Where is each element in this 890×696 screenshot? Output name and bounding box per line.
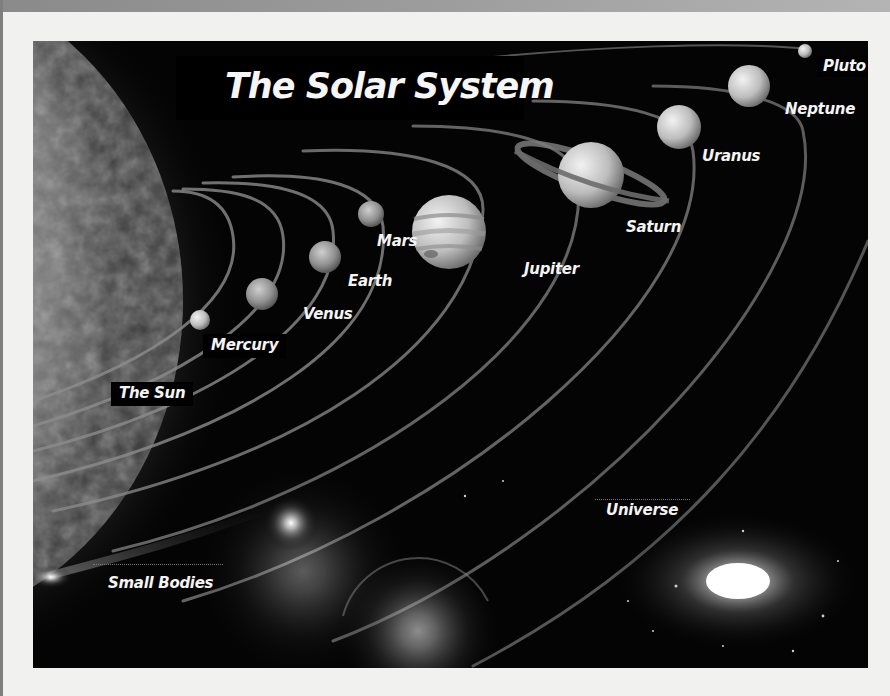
planet-mercury	[190, 310, 210, 330]
label-mercury: Mercury	[203, 334, 286, 358]
planet-venus	[246, 278, 278, 310]
spiral-galaxy	[613, 511, 863, 651]
solar-system-illustration: The Solar System Pluto Neptune Uranus Sa…	[33, 41, 868, 668]
planet-mars	[358, 201, 384, 227]
planet-pluto	[798, 44, 812, 58]
page-title: The Solar System	[225, 69, 554, 104]
label-pluto: Pluto	[817, 56, 868, 77]
planet-uranus	[657, 105, 701, 149]
planet-jupiter	[412, 195, 486, 269]
label-earth: Earth	[348, 274, 392, 289]
label-venus: Venus	[303, 307, 352, 322]
label-uranus: Uranus	[702, 149, 760, 164]
label-universe: Universe	[606, 503, 678, 518]
label-saturn: Saturn	[626, 220, 681, 235]
planet-neptune	[728, 65, 770, 107]
label-jupiter: Jupiter	[524, 262, 579, 277]
planet-saturn	[512, 132, 670, 215]
scan-top-band	[0, 0, 890, 12]
label-neptune: Neptune	[785, 102, 855, 117]
scan-left-edge	[0, 0, 3, 696]
label-mars: Mars	[377, 234, 417, 249]
small-bodies-leader-line	[93, 564, 223, 565]
universe-leader-line	[595, 499, 690, 500]
planet-earth	[309, 241, 341, 273]
label-small-bodies: Small Bodies	[108, 576, 213, 591]
label-the-sun: The Sun	[111, 382, 193, 406]
